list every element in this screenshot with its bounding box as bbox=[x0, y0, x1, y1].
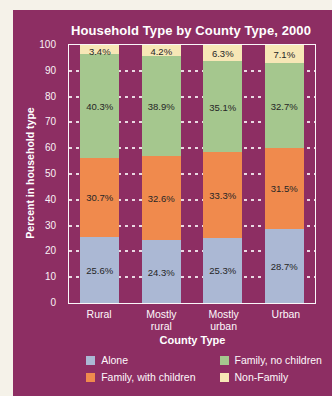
x-category-label: Rural bbox=[68, 308, 130, 333]
segment-value-label: 31.5% bbox=[271, 183, 298, 194]
legend: AloneFamily, with childrenFamily, no chi… bbox=[73, 354, 332, 383]
page-background: { "colors": { "page_background": "#f5f2e… bbox=[0, 0, 332, 396]
y-tick-label: 50 bbox=[45, 168, 56, 179]
legend-item: Family, with children bbox=[86, 371, 195, 383]
segment-value-label: 38.9% bbox=[148, 101, 175, 112]
y-tick-label: 70 bbox=[45, 116, 56, 127]
bar-slot: 24.3%32.6%38.9%4.2% bbox=[131, 45, 193, 303]
legend-swatch-icon bbox=[220, 373, 229, 382]
stacked-bar: 25.3%33.3%35.1%6.3% bbox=[203, 45, 242, 303]
segment-value-label: 32.6% bbox=[148, 193, 175, 204]
stacked-bar: 28.7%31.5%32.7%7.1% bbox=[265, 45, 304, 303]
segment-value-label: 32.7% bbox=[271, 100, 298, 111]
bar-slot: 25.3%33.3%35.1%6.3% bbox=[192, 45, 254, 303]
stacked-bar: 24.3%32.6%38.9%4.2% bbox=[142, 45, 181, 303]
stacked-bar: 25.6%30.7%40.3%3.4% bbox=[80, 45, 119, 303]
segment-value-label: 33.3% bbox=[209, 189, 236, 200]
segment-value-label: 35.1% bbox=[209, 101, 236, 112]
legend-swatch-icon bbox=[220, 356, 229, 365]
bar-segment: 4.2% bbox=[142, 45, 181, 56]
bar-segment: 7.1% bbox=[265, 45, 304, 63]
y-tick-label: 40 bbox=[45, 193, 56, 204]
y-tick-label: 0 bbox=[50, 297, 56, 308]
segment-value-label: 24.3% bbox=[148, 266, 175, 277]
legend-swatch-icon bbox=[86, 356, 95, 365]
segment-value-label: 4.2% bbox=[150, 46, 172, 57]
x-category-label: Urban bbox=[255, 308, 317, 333]
bar-segment: 30.7% bbox=[80, 158, 119, 237]
x-category-label: Mostly urban bbox=[193, 308, 255, 333]
legend-label: Alone bbox=[101, 354, 128, 366]
plot-area: 25.6%30.7%40.3%3.4%24.3%32.6%38.9%4.2%25… bbox=[68, 44, 316, 304]
segment-value-label: 7.1% bbox=[273, 49, 295, 60]
bar-segment: 25.6% bbox=[80, 237, 119, 303]
segment-value-label: 3.4% bbox=[89, 46, 111, 57]
segment-value-label: 40.3% bbox=[86, 100, 113, 111]
legend-label: Family, with children bbox=[101, 371, 195, 383]
legend-item: Non-Family bbox=[220, 371, 322, 383]
y-tick-label: 80 bbox=[45, 90, 56, 101]
bar-slot: 28.7%31.5%32.7%7.1% bbox=[254, 45, 316, 303]
bar-segment: 3.4% bbox=[80, 45, 119, 54]
bars: 25.6%30.7%40.3%3.4%24.3%32.6%38.9%4.2%25… bbox=[69, 45, 315, 303]
bar-segment: 35.1% bbox=[203, 61, 242, 152]
y-axis-ticks: 0102030405060708090100 bbox=[13, 44, 62, 302]
y-tick-label: 90 bbox=[45, 64, 56, 75]
segment-value-label: 6.3% bbox=[212, 48, 234, 59]
bar-segment: 38.9% bbox=[142, 56, 181, 156]
legend-label: Family, no children bbox=[235, 354, 322, 366]
chart-title: Household Type by County Type, 2000 bbox=[58, 23, 324, 38]
bar-slot: 25.6%30.7%40.3%3.4% bbox=[69, 45, 131, 303]
y-tick-label: 30 bbox=[45, 219, 56, 230]
bar-segment: 6.3% bbox=[203, 45, 242, 61]
x-axis-labels: RuralMostly ruralMostly urbanUrban bbox=[68, 308, 317, 333]
bar-segment: 32.6% bbox=[142, 156, 181, 240]
chart-card: Household Type by County Type, 2000 Perc… bbox=[13, 10, 332, 396]
bar-segment: 28.7% bbox=[265, 229, 304, 303]
bar-segment: 32.7% bbox=[265, 63, 304, 147]
bar-segment: 33.3% bbox=[203, 152, 242, 238]
segment-value-label: 25.3% bbox=[209, 265, 236, 276]
legend-item: Alone bbox=[86, 354, 195, 366]
bar-segment: 40.3% bbox=[80, 54, 119, 158]
bar-segment: 31.5% bbox=[265, 148, 304, 229]
y-tick-label: 10 bbox=[45, 271, 56, 282]
segment-value-label: 28.7% bbox=[271, 260, 298, 271]
y-tick-label: 100 bbox=[39, 39, 56, 50]
segment-value-label: 30.7% bbox=[86, 192, 113, 203]
bar-segment: 24.3% bbox=[142, 240, 181, 303]
legend-swatch-icon bbox=[86, 373, 95, 382]
y-tick-label: 20 bbox=[45, 245, 56, 256]
legend-label: Non-Family bbox=[235, 371, 289, 383]
x-axis-title: County Type bbox=[68, 334, 317, 346]
y-tick-label: 60 bbox=[45, 142, 56, 153]
segment-value-label: 25.6% bbox=[86, 264, 113, 275]
x-category-label: Mostly rural bbox=[130, 308, 192, 333]
bar-segment: 25.3% bbox=[203, 238, 242, 303]
legend-item: Family, no children bbox=[220, 354, 322, 366]
